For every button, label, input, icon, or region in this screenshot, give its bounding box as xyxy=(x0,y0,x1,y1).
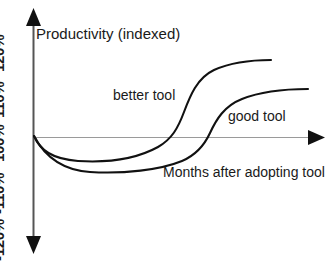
good-tool-annotation: good tool xyxy=(228,108,286,124)
y-tick-label-100: 100% xyxy=(0,125,7,162)
chart-title: Productivity (indexed) xyxy=(36,25,180,42)
productivity-j-curve-chart: 120% 110% 100% -110% -120% Productivity … xyxy=(0,0,333,261)
x-axis-label: Months after adopting tool xyxy=(163,164,325,180)
x-axis-arrowhead-icon xyxy=(308,130,325,145)
y-axis-top-arrowhead-icon xyxy=(26,8,41,26)
y-tick-label-110: 110% xyxy=(0,82,7,118)
y-tick-label-neg120: -120% xyxy=(0,219,7,261)
y-tick-label-neg110: -110% xyxy=(0,173,7,214)
y-axis-bottom-arrowhead-icon xyxy=(26,236,41,254)
better-tool-annotation: better tool xyxy=(113,87,175,103)
y-tick-label-120: 120% xyxy=(0,35,7,72)
